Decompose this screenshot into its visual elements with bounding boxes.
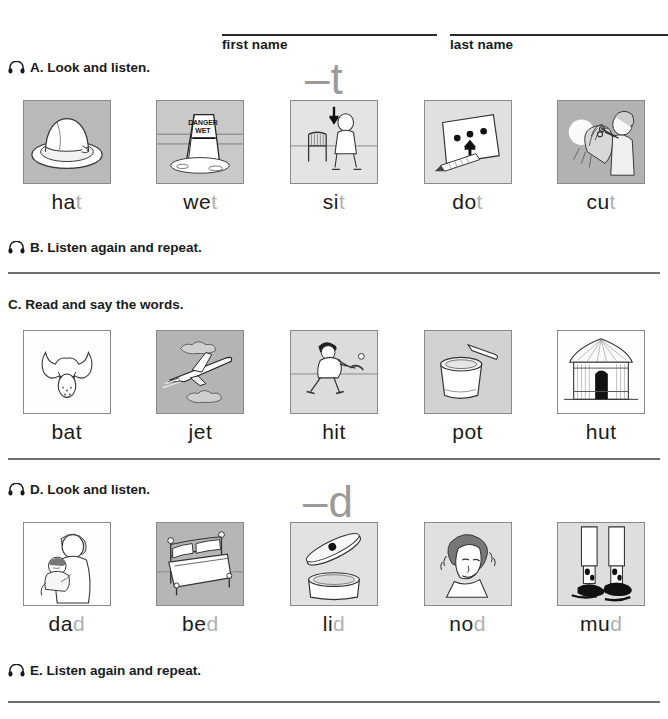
section-c-label: C. Read and say the words.	[8, 297, 184, 312]
section-a-heading: A. Look and listen.	[8, 60, 150, 75]
word-hat: hat	[51, 191, 82, 212]
divider-after-c	[8, 458, 660, 460]
item-hat[interactable]: hat	[0, 100, 134, 212]
picture-person-sitting-chair	[290, 100, 378, 184]
word-bat: bat	[51, 421, 82, 442]
section-d-heading: D. Look and listen.	[8, 482, 150, 497]
headphones-icon	[8, 61, 25, 74]
section-d-label: D. Look and listen.	[30, 482, 150, 497]
headphones-icon	[8, 664, 25, 677]
first-name-field[interactable]: first name	[222, 34, 437, 52]
item-bed[interactable]: bed	[134, 522, 268, 634]
word-bed: bed	[182, 613, 219, 634]
picture-paper-with-dots	[424, 100, 512, 184]
picture-fedora-hat	[23, 100, 111, 184]
picture-man-nodding-head	[424, 522, 512, 606]
picture-danger-wet-sign: DANGER WET	[156, 100, 244, 184]
section-c-heading: C. Read and say the words.	[8, 297, 184, 312]
item-hut[interactable]: hut	[534, 330, 668, 442]
word-pot: pot	[452, 421, 483, 442]
last-name-field[interactable]: last name	[450, 34, 668, 52]
item-jet[interactable]: jet	[134, 330, 268, 442]
section-b-heading: B. Listen again and repeat.	[8, 240, 202, 255]
worksheet-page: first name last name A. Look and listen.…	[0, 0, 668, 719]
word-wet: wet	[183, 191, 217, 212]
picture-baseball-batter	[290, 330, 378, 414]
section-e-heading: E. Listen again and repeat.	[8, 663, 201, 678]
word-jet: jet	[189, 421, 213, 442]
item-lid[interactable]: lid	[267, 522, 401, 634]
picture-haircut-scissors	[557, 100, 645, 184]
picture-pot-lid	[290, 522, 378, 606]
picture-feet-in-mud	[557, 522, 645, 606]
item-wet[interactable]: DANGER WET wet	[134, 100, 268, 212]
picture-cooking-pot	[424, 330, 512, 414]
picture-thatched-hut	[557, 330, 645, 414]
word-sit: sit	[323, 191, 346, 212]
headphones-icon	[8, 241, 25, 254]
divider-after-e	[8, 701, 660, 703]
word-cut: cut	[586, 191, 616, 212]
item-sit[interactable]: sit	[267, 100, 401, 212]
item-cut[interactable]: cut	[534, 100, 668, 212]
picture-father-holding-baby	[23, 522, 111, 606]
picture-bed	[156, 522, 244, 606]
word-hut: hut	[586, 421, 617, 442]
word-nod: nod	[449, 613, 486, 634]
section-e-label: E. Listen again and repeat.	[30, 663, 201, 678]
svg-text:DANGER: DANGER	[189, 119, 219, 126]
word-dad: dad	[49, 613, 86, 634]
item-dot[interactable]: dot	[401, 100, 535, 212]
svg-text:WET: WET	[196, 127, 212, 134]
item-pot[interactable]: pot	[401, 330, 535, 442]
item-dad[interactable]: dad	[0, 522, 134, 634]
item-bat[interactable]: bat	[0, 330, 134, 442]
word-hit: hit	[322, 421, 346, 442]
picture-flying-bat	[23, 330, 111, 414]
section-b-label: B. Listen again and repeat.	[30, 240, 202, 255]
item-nod[interactable]: nod	[401, 522, 535, 634]
word-dot: dot	[452, 191, 483, 212]
item-hit[interactable]: hit	[267, 330, 401, 442]
phoneme-card-t: –t	[305, 57, 344, 101]
section-a-label: A. Look and listen.	[30, 60, 150, 75]
first-name-label: first name	[222, 36, 437, 52]
picture-jet-airplane	[156, 330, 244, 414]
section-c-items: bat jet	[0, 330, 668, 442]
section-d-items: dad	[0, 522, 668, 634]
word-mud: mud	[580, 613, 622, 634]
phoneme-card-d: –d	[303, 480, 354, 524]
word-lid: lid	[323, 613, 346, 634]
headphones-icon	[8, 483, 25, 496]
section-a-items: hat DANGER WET wet	[0, 100, 668, 212]
divider-after-b	[8, 272, 660, 274]
last-name-label: last name	[450, 36, 668, 52]
item-mud[interactable]: mud	[534, 522, 668, 634]
